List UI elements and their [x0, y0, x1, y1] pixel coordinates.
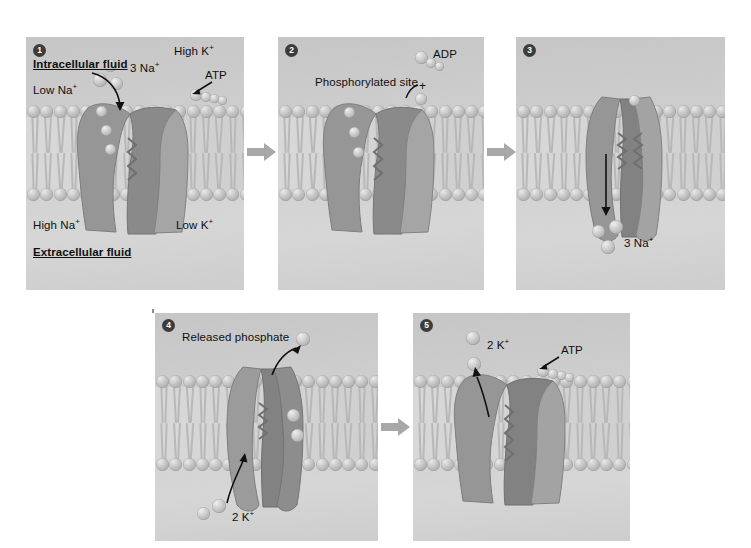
na-ion-released: [592, 225, 605, 238]
label-low-k-sup: +: [208, 217, 213, 226]
flow-arrow-2-3: [487, 143, 517, 161]
step-badge-5: 5: [420, 319, 433, 332]
label-atp: ATP: [205, 69, 227, 81]
label-low-na-sup: +: [73, 82, 78, 91]
na-ion-released: [609, 220, 623, 234]
phospholipid-head: [703, 188, 716, 201]
phospholipid-head: [627, 458, 630, 471]
label-3-na-out: 3 Na+: [624, 235, 653, 249]
label-2-k-out-text: 2 K: [487, 339, 505, 351]
adp-sphere: [435, 62, 444, 71]
k-ion-free: [197, 507, 210, 520]
phospholipid-head: [226, 188, 239, 201]
phospholipid-head: [613, 375, 626, 388]
na-ion-bound: [349, 127, 360, 138]
phospholipid-head: [355, 375, 368, 388]
phospholipid-head: [369, 375, 378, 388]
pump-protein-2: [318, 90, 448, 240]
label-adp: ADP: [433, 48, 457, 60]
phospholipid-head: [240, 105, 244, 118]
phospholipid-head: [40, 105, 53, 118]
phospholipid-head: [587, 375, 600, 388]
flow-arrow-1-2: [247, 143, 277, 161]
atp-pointer-arrow-5: [537, 355, 563, 371]
k-exit-arrow: [467, 363, 499, 419]
na-exit-arrow: [600, 154, 614, 220]
label-high-k-text: High K: [174, 45, 209, 57]
atp-adenosine: [218, 96, 227, 105]
phospholipid-head: [530, 188, 543, 201]
label-atp-5: ATP: [561, 344, 583, 356]
phospholipid-head: [183, 458, 196, 471]
panel-step-4: 4 Released phosphate 2 K+: [155, 313, 378, 541]
label-3-na-sup: +: [155, 60, 160, 69]
label-2-k-out-sup: +: [505, 337, 510, 346]
phospholipid-head: [342, 375, 355, 388]
phospholipid-head: [517, 105, 530, 118]
label-high-k-sup: +: [209, 43, 214, 52]
phospholipid-head: [544, 188, 557, 201]
step-badge-1: 1: [33, 44, 46, 57]
phospholipid-head: [54, 105, 67, 118]
phospholipid-head: [27, 188, 40, 201]
step-badge-4: 4: [162, 319, 175, 332]
phospholipid-head: [169, 375, 182, 388]
phospholipid-head: [369, 458, 378, 471]
k-entry-arrow: [219, 449, 251, 507]
panel-step-2: 2 Phosphorylated site ADP +: [278, 37, 484, 290]
label-low-k-text: Low K: [176, 219, 208, 231]
flow-arrow-4-5: [381, 418, 411, 436]
atp-adenosine: [565, 373, 574, 382]
phospholipid-head: [517, 188, 530, 201]
phospholipid-head: [292, 105, 305, 118]
phospholipid-head: [452, 105, 465, 118]
k-ion-bound: [291, 429, 304, 442]
phospholipid-head: [478, 105, 484, 118]
phospholipid-head: [414, 458, 427, 471]
label-intracellular-fluid: Intracellular fluid: [33, 58, 128, 70]
label-2-k-in-sup: +: [250, 509, 255, 518]
label-high-na: High Na+: [33, 217, 80, 231]
phospholipid-head: [279, 105, 292, 118]
phospholipid-head: [226, 105, 239, 118]
label-3-na-in: 3 Na+: [130, 60, 159, 74]
figure-canvas: 1 Intracellular fluid Low Na+ High K+ 3 …: [0, 0, 751, 548]
label-released-phosphate: Released phosphate: [182, 331, 289, 343]
phospholipid-head: [306, 188, 319, 201]
na-ion-bound: [101, 125, 112, 136]
phospholipid-head: [703, 105, 716, 118]
phospholipid-head: [169, 458, 182, 471]
phospholipid-head: [478, 188, 484, 201]
phospholipid-head: [427, 458, 440, 471]
na-ion-bound: [344, 107, 355, 118]
label-low-k: Low K+: [176, 217, 213, 231]
phospholipid-head: [156, 375, 169, 388]
phospholipid-head: [414, 375, 427, 388]
step-badge-3: 3: [523, 44, 536, 57]
phospholipid-head: [613, 458, 626, 471]
atp-pointer-arrow: [190, 80, 216, 96]
label-3-na-out-sup: +: [649, 235, 654, 244]
phospholipid-head: [465, 188, 478, 201]
phospholipid-head: [600, 375, 613, 388]
label-extracellular-fluid: Extracellular fluid: [33, 246, 131, 258]
label-plus: +: [419, 79, 426, 93]
label-2-k-in: 2 K+: [232, 509, 254, 523]
phospholipid-head: [183, 375, 196, 388]
na-ion-bound: [105, 144, 116, 155]
phospholipid-head: [342, 458, 355, 471]
phospholipid-head: [213, 105, 226, 118]
step-badge-2: 2: [285, 44, 298, 57]
phospholipid-head: [716, 105, 725, 118]
label-2-k-out: 2 K+: [487, 337, 509, 351]
phospholipid-head: [355, 458, 368, 471]
label-high-na-text: High Na: [33, 219, 75, 231]
phospholipid-head: [587, 458, 600, 471]
phospholipid-head: [27, 105, 40, 118]
label-high-na-sup: +: [75, 217, 80, 226]
k-ion-released: [466, 331, 480, 345]
phospholipid-head: [40, 188, 53, 201]
phospholipid-head: [465, 105, 478, 118]
label-low-na-text: Low Na: [33, 84, 73, 96]
phospholipid-head: [54, 188, 67, 201]
